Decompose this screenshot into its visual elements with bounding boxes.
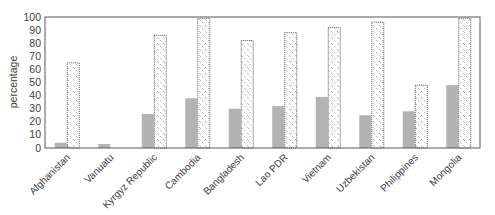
bar-series-1 bbox=[229, 109, 241, 148]
y-tick-label: 10 bbox=[29, 128, 41, 140]
y-tick-label: 60 bbox=[29, 63, 41, 75]
x-tick-label: Bangladesh bbox=[201, 152, 246, 197]
y-tick-label: 0 bbox=[35, 142, 41, 154]
x-tick-label: Vietnam bbox=[300, 152, 334, 186]
y-tick-label: 30 bbox=[29, 102, 41, 114]
bar-series-2 bbox=[372, 22, 384, 148]
x-tick-label: Lao PDR bbox=[253, 152, 289, 188]
y-tick-label: 70 bbox=[29, 50, 41, 62]
bar-series-1 bbox=[142, 114, 154, 148]
bars bbox=[55, 18, 471, 148]
x-tick-label: Uzbekistan bbox=[334, 152, 377, 195]
bar-series-2 bbox=[415, 85, 427, 148]
bar-series-1 bbox=[55, 143, 67, 148]
y-tick-label: 80 bbox=[29, 37, 41, 49]
x-tick-label: Afghanistan bbox=[27, 152, 72, 197]
bar-series-2 bbox=[328, 27, 340, 148]
y-axis-label: percentage bbox=[7, 56, 19, 109]
bar-series-2 bbox=[241, 41, 253, 148]
y-tick-label: 90 bbox=[29, 24, 41, 36]
y-axis: 0102030405060708090100 bbox=[23, 11, 41, 154]
y-tick-label: 20 bbox=[29, 115, 41, 127]
y-tick-label: 50 bbox=[29, 76, 41, 88]
x-tick-label: Philippines bbox=[378, 152, 420, 194]
bar-series-2 bbox=[154, 35, 166, 148]
bar-series-2 bbox=[67, 63, 79, 148]
bar-series-1 bbox=[316, 97, 328, 148]
x-tick-label: Mongolia bbox=[427, 151, 464, 188]
bar-series-1 bbox=[272, 106, 284, 148]
bar-series-2 bbox=[459, 18, 471, 148]
bar-series-1 bbox=[403, 111, 415, 148]
bar-series-1 bbox=[359, 115, 371, 148]
x-axis-labels: AfghanistanVanuatuKyrgyz RepublicCambodi… bbox=[27, 151, 464, 210]
bar-series-2 bbox=[198, 18, 210, 148]
x-tick-label: Cambodia bbox=[163, 151, 203, 191]
y-tick-label: 100 bbox=[23, 11, 41, 23]
y-tick-label: 40 bbox=[29, 89, 41, 101]
bar-chart: 0102030405060708090100 percentage Afghan… bbox=[0, 0, 495, 215]
bar-series-1 bbox=[185, 98, 197, 148]
bar-series-1 bbox=[446, 85, 458, 148]
bar-series-1 bbox=[98, 144, 110, 148]
bar-series-2 bbox=[285, 33, 297, 148]
x-tick-label: Vanuatu bbox=[82, 152, 116, 186]
